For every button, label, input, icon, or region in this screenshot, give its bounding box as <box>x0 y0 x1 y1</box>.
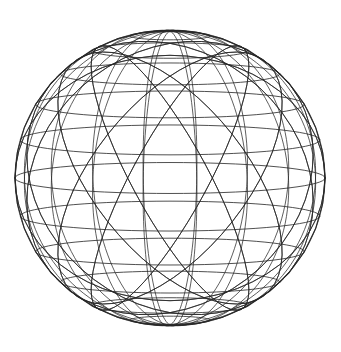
figure-canvas: Wireframe Sphere Black-and-white line dr… <box>0 0 341 352</box>
wireframe-sphere-figure: Wireframe Sphere Black-and-white line dr… <box>0 0 341 352</box>
